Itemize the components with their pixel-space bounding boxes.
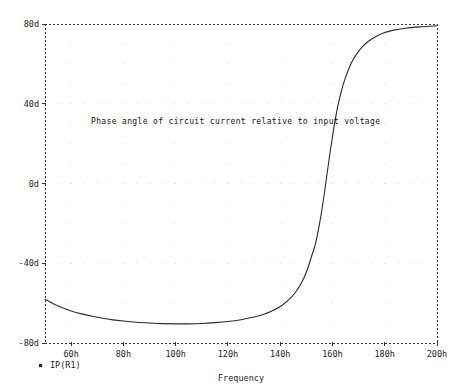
grid-dot: [175, 203, 176, 204]
grid-dot: [241, 263, 242, 264]
grid-dot: [227, 303, 228, 304]
grid-dot: [123, 263, 124, 264]
grid-dot: [384, 123, 385, 124]
grid-dot: [410, 103, 411, 104]
grid-dot: [175, 43, 176, 44]
grid-dot: [175, 223, 176, 224]
grid-dot: [280, 83, 281, 84]
grid-dot: [71, 83, 72, 84]
grid-dot: [84, 263, 85, 264]
grid-dot: [71, 283, 72, 284]
grid-dot: [332, 203, 333, 204]
grid-dot: [162, 103, 163, 104]
grid-dot: [227, 263, 228, 264]
grid-dot: [345, 103, 346, 104]
grid-dot: [280, 163, 281, 164]
grid-dot: [241, 103, 242, 104]
grid-dot: [201, 103, 202, 104]
grid-dot: [332, 283, 333, 284]
grid-dot: [293, 263, 294, 264]
grid-dot: [345, 183, 346, 184]
grid-dot: [319, 103, 320, 104]
grid-dot: [280, 263, 281, 264]
x-tick-label: 100h: [165, 349, 185, 359]
grid-dots: [58, 43, 425, 323]
grid-dot: [332, 63, 333, 64]
grid-dot: [384, 183, 385, 184]
grid-dot: [332, 183, 333, 184]
grid-dot: [280, 203, 281, 204]
grid-dot: [280, 143, 281, 144]
grid-dot: [175, 243, 176, 244]
grid-dot: [332, 243, 333, 244]
grid-dot: [123, 143, 124, 144]
grid-dot: [227, 283, 228, 284]
grid-dot: [280, 283, 281, 284]
grid-dot: [71, 63, 72, 64]
grid-dot: [332, 43, 333, 44]
grid-dot: [123, 163, 124, 164]
grid-dot: [371, 263, 372, 264]
grid-dot: [332, 83, 333, 84]
grid-dot: [71, 183, 72, 184]
grid-dot: [188, 183, 189, 184]
grid-dot: [227, 63, 228, 64]
grid-dot: [384, 143, 385, 144]
x-tick-label: 160h: [322, 349, 342, 359]
grid-dot: [175, 63, 176, 64]
grid-dot: [280, 303, 281, 304]
grid-dot: [110, 183, 111, 184]
grid-dot: [123, 43, 124, 44]
grid-dot: [136, 263, 137, 264]
grid-dot: [162, 183, 163, 184]
grid-dot: [306, 263, 307, 264]
grid-dot: [214, 263, 215, 264]
chart-container: 80d40d0d-40d-80d 60h80h100h120h140h160h1…: [0, 0, 460, 392]
grid-dot: [71, 103, 72, 104]
grid-dot: [123, 323, 124, 324]
grid-dot: [358, 183, 359, 184]
grid-dot: [410, 183, 411, 184]
grid-dot: [423, 103, 424, 104]
grid-dot: [58, 103, 59, 104]
grid-dot: [214, 183, 215, 184]
grid-dot: [358, 263, 359, 264]
grid-dot: [319, 183, 320, 184]
grid-dot: [71, 43, 72, 44]
grid-dot: [71, 243, 72, 244]
grid-dot: [332, 163, 333, 164]
x-tick-label: 80h: [116, 349, 131, 359]
grid-dot: [267, 263, 268, 264]
grid-dot: [280, 63, 281, 64]
grid-dot: [423, 263, 424, 264]
grid-dot: [149, 183, 150, 184]
grid-dot: [71, 203, 72, 204]
grid-dot: [71, 263, 72, 264]
grid-dot: [371, 183, 372, 184]
y-tick-label: 0d: [29, 179, 39, 189]
grid-dot: [358, 103, 359, 104]
y-tick-label: -40d: [19, 258, 39, 268]
grid-dot: [254, 183, 255, 184]
grid-dot: [136, 183, 137, 184]
grid-dot: [384, 263, 385, 264]
grid-dot: [123, 183, 124, 184]
grid-dot: [175, 163, 176, 164]
grid-dot: [254, 103, 255, 104]
grid-dot: [84, 183, 85, 184]
series-line-ip-r1: [45, 26, 437, 324]
grid-dot: [175, 303, 176, 304]
grid-dot: [71, 303, 72, 304]
grid-dot: [384, 103, 385, 104]
grid-dot: [267, 103, 268, 104]
y-axis-ticks: 80d40d0d-40d-80d: [19, 19, 46, 348]
grid-dot: [175, 143, 176, 144]
grid-dot: [332, 323, 333, 324]
x-tick-label: 140h: [270, 349, 290, 359]
grid-dot: [123, 243, 124, 244]
grid-dot: [319, 263, 320, 264]
grid-dot: [384, 323, 385, 324]
y-tick-label: 40d: [24, 99, 39, 109]
grid-dot: [175, 83, 176, 84]
grid-dot: [384, 203, 385, 204]
